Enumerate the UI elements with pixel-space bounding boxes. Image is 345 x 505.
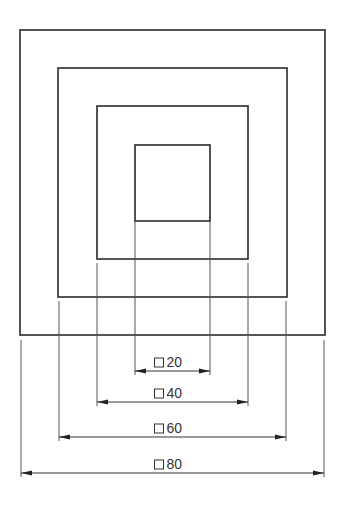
square-40 — [97, 106, 248, 259]
dimension-value: 20 — [167, 354, 183, 370]
square-60 — [58, 68, 287, 297]
square-symbol-icon — [155, 358, 164, 367]
arrowhead-right-icon — [275, 435, 286, 440]
dimension-20: 20 — [135, 221, 210, 375]
square-20 — [135, 145, 210, 221]
arrowhead-left-icon — [97, 400, 108, 405]
square-symbol-icon — [155, 460, 164, 469]
square-symbol-icon — [155, 389, 164, 398]
dimension-value: 60 — [167, 420, 183, 436]
arrowhead-left-icon — [135, 369, 146, 374]
arrowhead-left-icon — [59, 435, 70, 440]
dimension-value: 80 — [167, 456, 183, 472]
dimension-value: 40 — [167, 385, 183, 401]
arrowhead-right-icon — [237, 400, 248, 405]
dimensioned-squares-drawing: 20406080 — [0, 0, 345, 505]
arrowhead-right-icon — [199, 369, 210, 374]
arrowhead-left-icon — [21, 471, 32, 476]
square-80 — [20, 30, 325, 335]
square-symbol-icon — [155, 424, 164, 433]
arrowhead-right-icon — [313, 471, 324, 476]
